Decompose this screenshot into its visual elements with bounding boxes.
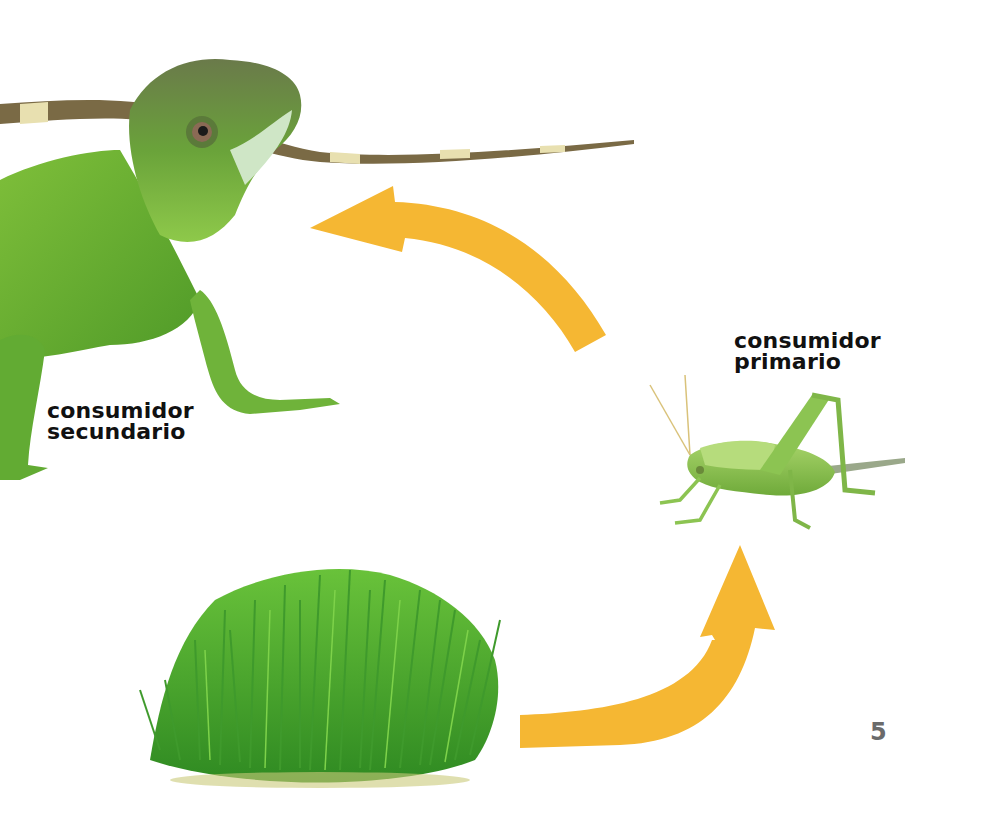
label-primary-line-2: primario — [734, 351, 881, 372]
lizard-left-leg — [0, 335, 48, 480]
arrow-producer-to-primary — [520, 545, 775, 748]
label-primary-consumer: consumidor primario — [734, 330, 881, 372]
label-secondary-line-1: consumidor — [47, 400, 194, 421]
arrow-primary-to-secondary — [310, 186, 606, 352]
grasshopper-image — [650, 375, 905, 528]
page-number: 5 — [870, 718, 887, 746]
label-secondary-consumer: consumidor secundario — [47, 400, 194, 442]
label-primary-line-1: consumidor — [734, 330, 881, 351]
grass-image — [140, 569, 500, 788]
label-secondary-line-2: secundario — [47, 421, 194, 442]
lizard-right-leg — [190, 290, 340, 414]
